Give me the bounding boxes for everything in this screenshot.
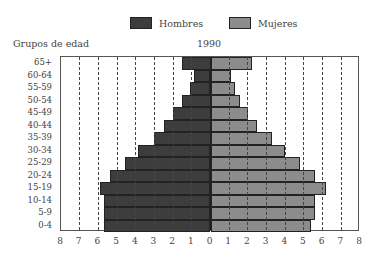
category-label: 30-34 (27, 145, 52, 155)
bar-mujeres-25-29 (211, 157, 301, 170)
x-tick-label: 5 (296, 236, 310, 246)
bar-mujeres-35-39 (211, 132, 273, 145)
bar-mujeres-40-44 (211, 120, 258, 133)
bar-hombres-35-39 (154, 132, 210, 145)
bar-hombres-20-24 (110, 170, 211, 183)
gridline (303, 57, 304, 230)
category-label: 65+ (34, 57, 52, 67)
bar-hombres-65+ (182, 57, 210, 70)
x-tick-label: 8 (352, 236, 366, 246)
x-tick-label: 5 (109, 236, 123, 246)
bar-hombres-40-44 (164, 120, 211, 133)
x-tick-label: 2 (165, 236, 179, 246)
chart-title: 1990 (0, 38, 378, 49)
gridline (191, 57, 192, 230)
bar-hombres-60-64 (194, 70, 211, 83)
x-tick-label: 8 (53, 236, 67, 246)
category-label: 25-29 (27, 157, 52, 167)
gridline (341, 57, 342, 230)
bar-hombres-5-9 (104, 207, 211, 220)
x-tick-label: 1 (184, 236, 198, 246)
bar-hombres-25-29 (125, 157, 211, 170)
category-label: 40-44 (27, 120, 52, 130)
category-label: 10-14 (27, 195, 52, 205)
gridline (247, 57, 248, 230)
gridline (322, 57, 323, 230)
x-tick-label: 3 (259, 236, 273, 246)
category-label: 50-54 (27, 95, 52, 105)
category-label: 15-19 (27, 182, 52, 192)
legend-hombres: Hombres (130, 17, 203, 29)
x-tick-label: 6 (90, 236, 104, 246)
bar-hombres-0-4 (104, 220, 211, 233)
bar-mujeres-20-24 (211, 170, 316, 183)
bar-mujeres-50-54 (211, 95, 241, 108)
bar-mujeres-55-59 (211, 82, 235, 95)
bar-mujeres-5-9 (211, 207, 316, 220)
category-label: 0-4 (38, 220, 52, 230)
legend-label-mujeres: Mujeres (258, 18, 297, 29)
gridline (135, 57, 136, 230)
x-tick-label: 4 (128, 236, 142, 246)
gridline (229, 57, 230, 230)
bar-mujeres-65+ (211, 57, 252, 70)
x-tick-label: 6 (315, 236, 329, 246)
legend-swatch-mujeres (229, 17, 251, 29)
legend-mujeres: Mujeres (229, 17, 297, 29)
bar-hombres-50-54 (182, 95, 210, 108)
bar-mujeres-0-4 (211, 220, 312, 233)
gridline (117, 57, 118, 230)
x-tick-label: 4 (277, 236, 291, 246)
bar-hombres-55-59 (190, 82, 211, 95)
bar-mujeres-10-14 (211, 195, 316, 208)
gridline (154, 57, 155, 230)
category-label: 55-59 (27, 82, 52, 92)
category-label: 60-64 (27, 70, 52, 80)
category-label: 20-24 (27, 170, 52, 180)
bar-hombres-10-14 (104, 195, 211, 208)
legend-label-hombres: Hombres (159, 18, 203, 29)
legend-swatch-hombres (130, 17, 152, 29)
plot-area (60, 56, 359, 231)
gridline (266, 57, 267, 230)
gridline (98, 57, 99, 230)
category-label: 35-39 (27, 132, 52, 142)
gridline (173, 57, 174, 230)
x-tick-label: 7 (72, 236, 86, 246)
center-axis-line (210, 57, 211, 230)
x-tick-label: 3 (146, 236, 160, 246)
x-tick-label: 7 (333, 236, 347, 246)
bar-hombres-30-34 (138, 145, 211, 158)
gridline (79, 57, 80, 230)
x-tick-label: 2 (240, 236, 254, 246)
category-label: 45-49 (27, 107, 52, 117)
category-label: 5-9 (38, 207, 52, 217)
x-tick-label: 1 (221, 236, 235, 246)
x-tick-label: 0 (203, 236, 217, 246)
gridline (285, 57, 286, 230)
